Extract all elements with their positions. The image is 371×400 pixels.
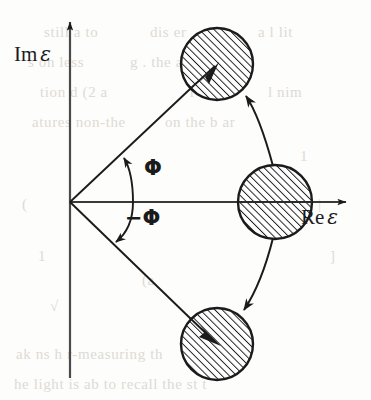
diagram-svg	[0, 0, 371, 400]
circle-upper	[181, 28, 253, 100]
migration-arrow-to-upper	[246, 96, 273, 166]
migration-arrow-upper-path	[246, 96, 273, 166]
imaginary-axis-label-prefix: Im	[14, 42, 37, 66]
angle-arc-phi-positive	[124, 158, 133, 202]
real-axis-label: Reε	[301, 205, 338, 230]
phi-positive-arc	[124, 158, 133, 202]
real-axis-label-prefix: Re	[301, 205, 324, 229]
real-axis-label-symbol: ε	[324, 205, 338, 229]
imaginary-axis-label: Imε	[14, 42, 51, 67]
angle-label-phi-positive: Φ	[144, 156, 162, 180]
imaginary-axis-label-symbol: ε	[37, 42, 51, 66]
migration-arrow-to-lower	[244, 238, 273, 310]
migration-arrow-lower-path	[244, 238, 273, 310]
figure-canvas: still a todis era l lits on lessg . the …	[0, 0, 371, 400]
circle-upper-shape	[181, 28, 253, 100]
angle-label-phi-negative: −Φ	[125, 206, 160, 230]
